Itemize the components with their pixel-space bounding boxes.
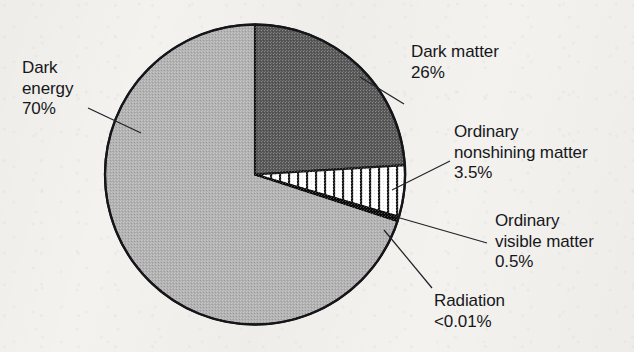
label-dark-energy-line2: energy bbox=[22, 79, 73, 100]
label-ordinary-nonshining-line3: 3.5% bbox=[454, 163, 587, 184]
leader-line-radiation bbox=[384, 230, 432, 288]
label-ordinary-visible-line2: visible matter bbox=[495, 232, 594, 253]
label-ordinary-visible-line3: 0.5% bbox=[495, 252, 594, 273]
label-dark-energy: Dark energy 70% bbox=[22, 58, 73, 120]
label-dark-energy-line1: Dark bbox=[22, 58, 73, 79]
label-dark-matter: Dark matter 26% bbox=[411, 42, 499, 83]
label-dark-energy-line3: 70% bbox=[22, 99, 73, 120]
label-ordinary-nonshining-line1: Ordinary bbox=[454, 122, 587, 143]
label-radiation: Radiation <0.01% bbox=[434, 291, 505, 332]
label-dark-matter-line2: 26% bbox=[411, 63, 499, 84]
pie-halftone-overlay bbox=[105, 25, 405, 325]
label-ordinary-nonshining-line2: nonshining matter bbox=[454, 143, 587, 164]
pie-chart-figure: Dark energy 70% Dark matter 26% Ordinary… bbox=[0, 0, 634, 352]
label-radiation-line2: <0.01% bbox=[434, 312, 505, 333]
label-radiation-line1: Radiation bbox=[434, 291, 505, 312]
leader-line-ordinary-visible-matter bbox=[393, 216, 487, 243]
label-dark-matter-line1: Dark matter bbox=[411, 42, 499, 63]
label-ordinary-nonshining-matter: Ordinary nonshining matter 3.5% bbox=[454, 122, 587, 184]
label-ordinary-visible-matter: Ordinary visible matter 0.5% bbox=[495, 211, 594, 273]
label-ordinary-visible-line1: Ordinary bbox=[495, 211, 594, 232]
